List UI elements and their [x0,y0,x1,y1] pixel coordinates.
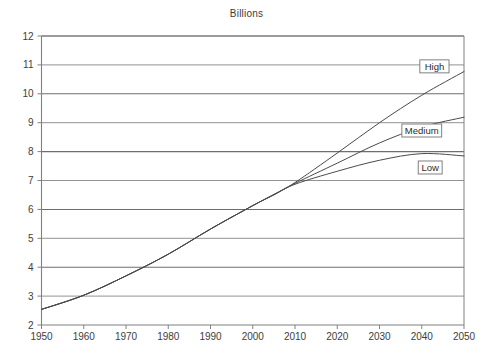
y-tick-label-5: 5 [28,233,34,244]
chart-canvas: 23456789101112 1950196019701980199020002… [0,0,493,362]
gridlines-group [42,36,465,296]
x-tick-label-2050: 2050 [453,331,476,342]
series-line-medium [42,117,465,309]
series-label-low: Low [418,161,442,174]
x-tick-label-1990: 1990 [199,331,222,342]
y-tick-label-2: 2 [28,320,34,331]
x-tick-label-2020: 2020 [326,331,349,342]
y-tick-label-7: 7 [28,175,34,186]
x-tick-label-1950: 1950 [30,331,53,342]
x-tick-label-1970: 1970 [115,331,138,342]
y-tick-labels-group: 23456789101112 [22,31,34,331]
x-tick-label-2010: 2010 [284,331,307,342]
series-label-text-medium: Medium [405,125,439,136]
x-tick-label-1960: 1960 [73,331,96,342]
y-tick-label-9: 9 [28,117,34,128]
x-tick-labels-group: 1950196019701980199020002010202020302040… [30,331,475,342]
y-tick-label-4: 4 [28,262,34,273]
x-tick-label-2030: 2030 [368,331,391,342]
y-tick-label-8: 8 [28,146,34,157]
series-label-medium: Medium [402,124,442,137]
series-lines-group [42,72,465,310]
y-tick-label-11: 11 [23,59,34,70]
x-tick-label-1980: 1980 [157,331,180,342]
x-tick-label-2000: 2000 [242,331,265,342]
series-label-high: High [420,60,449,73]
y-tick-label-10: 10 [22,88,34,99]
x-tick-label-2040: 2040 [411,331,434,342]
population-projection-chart: Billions 23456789101112 1950196019701980… [0,0,493,362]
y-tick-label-12: 12 [22,31,34,42]
series-label-text-low: Low [421,162,439,173]
y-tick-label-6: 6 [28,204,34,215]
series-line-high [42,72,465,310]
series-label-text-high: High [425,61,445,72]
axes-group [38,36,465,329]
series-annotation-labels-group: HighMediumLow [402,60,449,174]
series-line-low [42,153,465,309]
y-tick-label-3: 3 [28,291,34,302]
